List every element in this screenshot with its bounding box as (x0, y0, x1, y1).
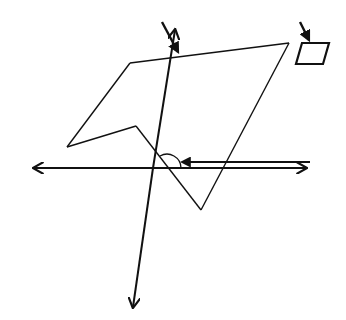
rhombus-arrow (300, 22, 309, 40)
smallest-rhombus (296, 43, 329, 64)
y-axis-down (133, 168, 153, 307)
land-polygon (67, 43, 289, 210)
lattice-diagram (0, 0, 346, 320)
y-axis (153, 30, 175, 168)
land-arrow (162, 22, 178, 52)
